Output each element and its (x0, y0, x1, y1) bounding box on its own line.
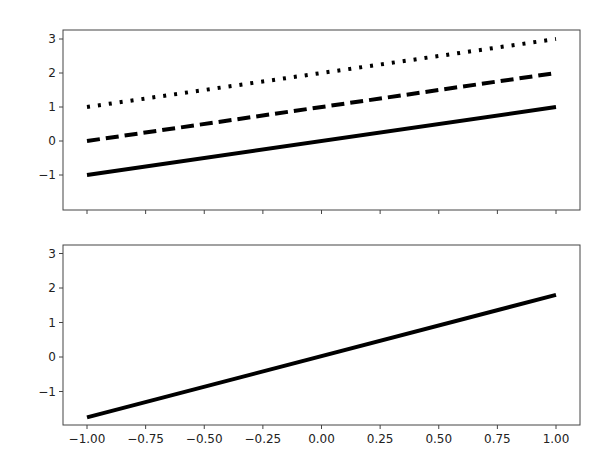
y-tick-label: 0 (48, 134, 56, 148)
series-line-solid (87, 107, 556, 175)
figure: −10123 −10123−1.00−0.75−0.50−0.250.000.2… (0, 0, 603, 474)
y-tick-label: 1 (48, 316, 56, 330)
x-tick-label: −0.50 (186, 432, 223, 446)
y-tick-label: 0 (48, 350, 56, 364)
x-tick-label: 1.00 (543, 432, 570, 446)
x-tick-label: −1.00 (69, 432, 106, 446)
y-tick-label: 2 (48, 281, 56, 295)
y-tick-label: 1 (48, 100, 56, 114)
axes-frame (63, 245, 580, 425)
bottom-axes: −10123−1.00−0.75−0.50−0.250.000.250.500.… (38, 245, 580, 446)
series-line-dotted (87, 39, 556, 107)
x-tick-label: 0.25 (367, 432, 394, 446)
y-tick-label: −1 (38, 385, 56, 399)
axes-frame (63, 30, 580, 210)
x-tick-label: 0.50 (425, 432, 452, 446)
x-tick-label: 0.75 (484, 432, 511, 446)
series-line-dashed (87, 73, 556, 141)
x-tick-label: −0.25 (244, 432, 281, 446)
x-tick-label: 0.00 (308, 432, 335, 446)
y-tick-label: 3 (48, 32, 56, 46)
y-tick-label: 2 (48, 66, 56, 80)
x-tick-label: −0.75 (127, 432, 164, 446)
top-axes: −10123 (38, 30, 580, 214)
series-line-solid (87, 295, 556, 417)
y-tick-label: 3 (48, 247, 56, 261)
y-tick-label: −1 (38, 168, 56, 182)
